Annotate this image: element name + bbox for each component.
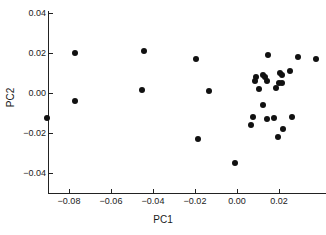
x-axis-line bbox=[48, 193, 326, 194]
data-point bbox=[279, 80, 285, 86]
data-point bbox=[264, 116, 270, 122]
x-tick-label: −0.08 bbox=[49, 197, 89, 206]
data-point bbox=[232, 160, 238, 166]
x-tick-label: −0.04 bbox=[133, 197, 173, 206]
x-tick-label: 0.00 bbox=[217, 197, 257, 206]
x-axis-label: PC1 bbox=[0, 214, 326, 225]
data-point bbox=[260, 102, 266, 108]
data-point bbox=[313, 56, 319, 62]
data-point bbox=[279, 72, 285, 78]
scatter-plot-figure: 0.040.020.00−0.02−0.04 −0.08−0.06−0.04−0… bbox=[0, 0, 326, 235]
data-point bbox=[44, 115, 50, 121]
y-axis-label: PC2 bbox=[5, 68, 16, 128]
y-tick-label: −0.04 bbox=[2, 169, 46, 178]
x-tick-label: 0.02 bbox=[259, 197, 299, 206]
data-point bbox=[195, 136, 201, 142]
data-point bbox=[256, 86, 262, 92]
data-point bbox=[141, 48, 147, 54]
y-tick-label: 0.02 bbox=[2, 49, 46, 58]
data-point bbox=[193, 56, 199, 62]
data-point bbox=[287, 68, 293, 74]
x-tick-label: −0.02 bbox=[175, 197, 215, 206]
x-tick-label: −0.06 bbox=[91, 197, 131, 206]
data-point bbox=[271, 115, 277, 121]
data-point bbox=[250, 114, 256, 120]
plot-area bbox=[48, 13, 326, 193]
y-tick-label: 0.04 bbox=[2, 9, 46, 18]
y-tick-label: −0.02 bbox=[2, 129, 46, 138]
